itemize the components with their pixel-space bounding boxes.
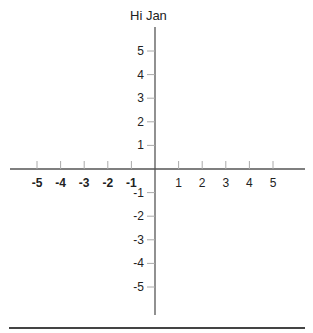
y-tick-label: -2 (133, 209, 144, 223)
y-tick-label: 3 (137, 91, 144, 105)
x-tick-label: 3 (222, 176, 229, 190)
x-tick-label: -5 (32, 176, 43, 190)
x-tick-label: 5 (270, 176, 277, 190)
x-tick-label: 1 (175, 176, 182, 190)
x-tick-label: -4 (55, 176, 66, 190)
y-tick-label: 2 (137, 115, 144, 129)
y-tick-label: -4 (133, 256, 144, 270)
y-tick-label: -1 (133, 186, 144, 200)
x-tick-label: 2 (199, 176, 206, 190)
y-tick-label: 5 (137, 44, 144, 58)
x-tick-label: -3 (79, 176, 90, 190)
y-tick-label: 1 (137, 138, 144, 152)
x-ticks: -5-4-3-2-112345 (32, 161, 277, 190)
y-tick-label: -3 (133, 233, 144, 247)
x-tick-label: 4 (246, 176, 253, 190)
coordinate-plane: -5-4-3-2-112345 54321-1-2-3-4-5 (0, 0, 313, 333)
y-tick-label: -5 (133, 280, 144, 294)
y-tick-label: 4 (137, 68, 144, 82)
x-tick-label: -2 (102, 176, 113, 190)
